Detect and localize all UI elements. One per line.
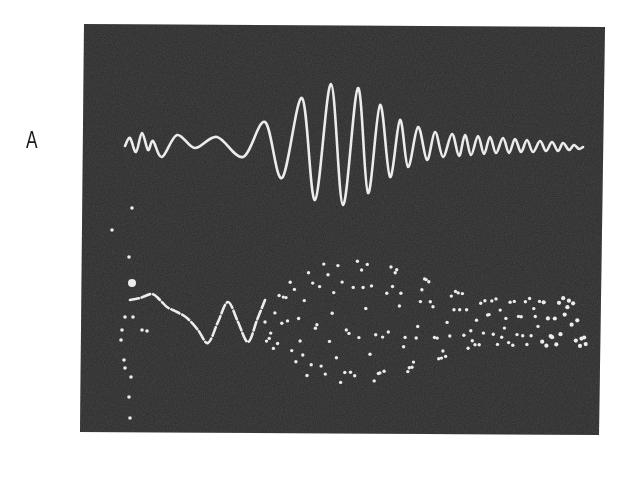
trace-dot xyxy=(540,340,544,344)
trace-dot xyxy=(119,338,123,342)
trace-dot xyxy=(494,297,497,300)
trace-dot xyxy=(322,262,325,265)
trace-dot xyxy=(120,328,124,332)
trace-dot xyxy=(378,371,381,374)
trace-dot xyxy=(441,349,444,352)
trace-dot xyxy=(128,279,136,287)
trace-dot xyxy=(584,342,588,346)
trace-dot xyxy=(444,355,447,358)
trace-dot xyxy=(445,321,448,324)
trace-dot xyxy=(127,255,131,259)
trace-dot xyxy=(478,343,481,346)
trace-dot xyxy=(298,339,301,342)
trace-dot xyxy=(565,305,569,309)
oscilloscope-screen xyxy=(0,0,633,494)
trace-dot xyxy=(127,395,131,399)
trace-dot xyxy=(554,342,558,346)
trace-dot xyxy=(532,307,535,310)
trace-dot xyxy=(360,268,363,271)
trace-dot xyxy=(462,334,465,337)
trace-dot xyxy=(544,344,548,348)
trace-dot xyxy=(450,294,453,297)
trace-dot xyxy=(528,297,531,300)
trace-dot xyxy=(536,325,539,328)
trace-dot xyxy=(394,271,397,274)
trace-dot xyxy=(503,326,506,329)
trace-dot xyxy=(336,264,339,267)
trace-dot xyxy=(382,370,385,373)
trace-dot xyxy=(524,300,527,303)
trace-dot xyxy=(366,263,369,266)
trace-dot xyxy=(265,339,268,342)
trace-dot xyxy=(452,308,455,311)
trace-dot xyxy=(469,329,472,332)
trace-dot xyxy=(381,335,384,338)
trace-dot xyxy=(570,323,574,327)
trace-dot xyxy=(395,268,398,271)
trace-dot xyxy=(492,333,495,336)
trace-dot xyxy=(416,325,419,328)
trace-dot xyxy=(122,358,126,362)
trace-dot xyxy=(318,285,321,288)
trace-dot xyxy=(487,313,490,316)
trace-dot xyxy=(402,345,405,348)
trace-dot xyxy=(538,300,541,303)
trace-dot xyxy=(290,349,293,352)
trace-dot xyxy=(370,284,373,287)
trace-dot xyxy=(297,317,300,320)
trace-dot xyxy=(305,374,308,377)
trace-dot xyxy=(496,343,499,346)
trace-dot xyxy=(561,296,565,300)
trace-dot xyxy=(557,301,561,305)
trace-dot xyxy=(420,288,423,291)
trace-dot xyxy=(352,286,355,289)
trace-dot xyxy=(314,327,317,330)
trace-dot xyxy=(328,340,331,343)
trace-dot xyxy=(403,336,406,339)
trace-dot xyxy=(343,371,346,374)
trace-dot xyxy=(490,299,493,302)
trace-dot xyxy=(286,319,289,322)
trace-dot xyxy=(311,281,314,284)
trace-dot xyxy=(368,353,371,356)
trace-dot xyxy=(482,331,485,334)
trace-dot xyxy=(294,360,297,363)
trace-dot xyxy=(326,273,329,276)
trace-dot xyxy=(508,301,511,304)
trace-dot xyxy=(507,341,510,344)
trace-dot xyxy=(398,304,401,307)
trace-dot xyxy=(293,288,296,291)
trace-dot xyxy=(457,291,460,294)
trace-dot xyxy=(406,370,409,373)
trace-dot xyxy=(349,371,352,374)
trace-dot xyxy=(361,286,364,289)
trace-dot xyxy=(429,300,432,303)
trace-dot xyxy=(415,336,418,339)
trace-dot xyxy=(268,337,271,340)
trace-dot xyxy=(110,228,114,232)
trace-dot xyxy=(385,292,388,295)
trace-dot xyxy=(563,313,567,317)
trace-dot xyxy=(500,336,503,339)
trace-dot xyxy=(575,318,579,322)
trace-dot xyxy=(353,374,356,377)
trace-dot xyxy=(542,300,546,304)
trace-dot xyxy=(513,300,516,303)
trace-dot xyxy=(520,315,523,318)
trace-dot xyxy=(374,333,377,336)
trace-dot xyxy=(582,335,586,339)
trace-dot xyxy=(499,308,502,311)
trace-dot xyxy=(529,334,532,337)
trace-dot xyxy=(461,292,464,295)
trace-dot xyxy=(558,332,562,336)
trace-dot xyxy=(431,305,434,308)
trace-dot xyxy=(310,363,313,366)
trace-dot xyxy=(550,335,554,339)
trace-dot xyxy=(356,260,359,263)
screen-grain xyxy=(80,24,605,435)
trace-dot xyxy=(280,322,283,325)
trace-dot xyxy=(347,332,350,335)
trace-dot xyxy=(389,265,392,268)
trace-dot xyxy=(534,315,537,318)
trace-dot xyxy=(284,296,287,299)
